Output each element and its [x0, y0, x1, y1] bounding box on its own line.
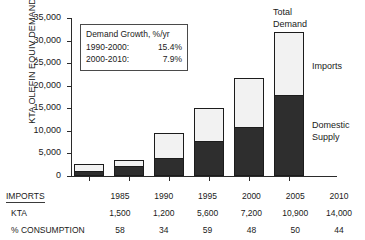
y-axis-tick: 15,000: [67, 108, 71, 109]
table-cell: 14,000: [317, 205, 361, 222]
y-axis-line: [71, 18, 72, 177]
bar-2010: [274, 32, 304, 176]
growth-period-2: 2000-2010:: [86, 53, 148, 66]
table-cell: 1,200: [142, 205, 186, 222]
y-axis-tick-label: 30,000: [17, 35, 61, 45]
table-cell: 48: [229, 222, 273, 239]
imports-data-table: IMPORTS198519901995200020052010KTA1,5001…: [4, 188, 361, 239]
y-axis-tick-label: 10,000: [17, 125, 61, 135]
growth-box-title-row: Demand Growth, %/yr: [86, 28, 182, 41]
bar-segment-imports: [274, 32, 304, 95]
table-row-label: % CONSUMPTION: [4, 222, 98, 239]
bar-segment-imports: [154, 133, 184, 158]
table-year-header: 2005: [273, 188, 317, 205]
table-year-header: 1995: [186, 188, 230, 205]
bar-segment-domestic-supply: [154, 158, 184, 176]
callout-domestic-supply-line1: Domestic: [312, 120, 350, 132]
table-row: KTA1,5001,2005,6007,20010,90014,000: [4, 205, 361, 222]
bar-segment-domestic-supply: [194, 141, 224, 176]
growth-box-title: Demand Growth, %/yr: [86, 28, 170, 41]
table-cell: 44: [317, 222, 361, 239]
x-axis-tick: [249, 177, 250, 181]
callout-domestic-supply: Domestic Supply: [312, 120, 350, 143]
imports-header-text: IMPORTS: [6, 191, 45, 203]
bar-segment-imports: [234, 78, 264, 127]
callout-domestic-supply-line2: Supply: [312, 132, 350, 144]
y-axis-tick-label: 15,000: [17, 102, 61, 112]
table-row: % CONSUMPTION583459485044: [4, 222, 361, 239]
bar-1985: [74, 164, 104, 176]
table-header-label: IMPORTS: [4, 188, 98, 205]
callout-imports: Imports: [312, 61, 342, 73]
y-axis-tick: 30,000: [67, 41, 71, 42]
bar-segment-domestic-supply: [274, 95, 304, 176]
chart-figure: KTA OLEFIN EQUIV DEMAND 35,00030,00025,0…: [0, 0, 365, 240]
y-axis-tick: 10,000: [67, 131, 71, 132]
x-axis-tick: [169, 177, 170, 181]
bar-2000: [194, 108, 224, 176]
table-year-header: 1990: [142, 188, 186, 205]
bar-2005: [234, 78, 264, 176]
table-cell: 10,900: [273, 205, 317, 222]
x-axis-line: [71, 176, 337, 177]
growth-box-row: 1990-2000: 15.4%: [86, 41, 182, 54]
table-cell: 7,200: [229, 205, 273, 222]
growth-box-row: 2000-2010: 7.9%: [86, 53, 182, 66]
y-axis-tick-label: 25,000: [17, 57, 61, 67]
x-axis-tick: [289, 177, 290, 181]
x-axis-tick: [129, 177, 130, 181]
callout-total-demand-line1: Total: [273, 7, 307, 19]
table-row-label: KTA: [4, 205, 98, 222]
table-cell: 5,600: [186, 205, 230, 222]
table-cell: 58: [98, 222, 142, 239]
demand-growth-legend-box: Demand Growth, %/yr 1990-2000: 15.4% 200…: [80, 24, 188, 71]
imports-table: IMPORTS198519901995200020052010KTA1,5001…: [4, 188, 361, 239]
bar-1990: [114, 160, 144, 176]
y-axis-tick-label: 35,000: [17, 12, 61, 22]
x-axis-tick: [89, 177, 90, 181]
y-axis-tick: 20,000: [67, 86, 71, 87]
table-header-row: IMPORTS198519901995200020052010: [4, 188, 361, 205]
y-axis-tick-label: 20,000: [17, 80, 61, 90]
x-axis-tick: [209, 177, 210, 181]
table-cell: 34: [142, 222, 186, 239]
bar-segment-domestic-supply: [114, 166, 144, 176]
bar-segment-domestic-supply: [234, 127, 264, 176]
callout-total-demand-line2: Demand: [273, 19, 307, 31]
table-year-header: 2000: [229, 188, 273, 205]
table-year-header: 1985: [98, 188, 142, 205]
y-axis-tick: 25,000: [67, 63, 71, 64]
table-year-header: 2010: [317, 188, 361, 205]
callout-total-demand: Total Demand: [273, 7, 307, 30]
bar-1995: [154, 133, 184, 176]
y-axis-tick: 5,000: [67, 153, 71, 154]
bar-segment-domestic-supply: [74, 171, 104, 176]
callout-imports-label: Imports: [312, 61, 342, 73]
table-cell: 50: [273, 222, 317, 239]
y-axis-tick: 35,000: [67, 18, 71, 19]
bar-segment-imports: [194, 108, 224, 141]
table-cell: 1,500: [98, 205, 142, 222]
bar-segment-imports: [74, 164, 104, 171]
growth-rate-1: 15.4%: [148, 41, 182, 54]
y-axis-tick-label: 0: [17, 170, 61, 180]
y-axis-tick: 0: [67, 176, 71, 177]
growth-rate-2: 7.9%: [148, 53, 182, 66]
growth-period-1: 1990-2000:: [86, 41, 148, 54]
table-cell: 59: [186, 222, 230, 239]
y-axis-tick-label: 5,000: [17, 147, 61, 157]
